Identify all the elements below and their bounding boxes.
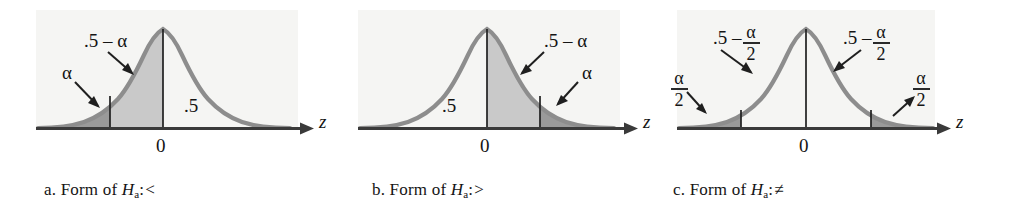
z-axis-label: z (955, 111, 964, 132)
panel-a-chart: .5 – α α .5 0 z (0, 0, 340, 175)
caption-symbol: H (751, 180, 763, 199)
panel-two-tailed: .5 – α 2 .5 – α 2 α 2 α 2 0 z c. Form of… (665, 0, 1013, 208)
z-axis-arrowhead (937, 123, 951, 135)
statistics-figure: .5 – α α .5 0 z a. Form of Ha:< (0, 0, 1013, 208)
caption-symbol: H (122, 180, 134, 199)
center-tick-label: 0 (156, 135, 166, 156)
caption-letter: b. (372, 180, 385, 199)
caption-letter: a. (44, 180, 56, 199)
panel-right-tailed: .5 – α α .5 0 z b. Form of Ha:> (330, 0, 670, 208)
label-half: .5 (442, 95, 456, 116)
panel-a-caption: a. Form of Ha:< (44, 180, 155, 200)
caption-colon: : (768, 180, 773, 199)
center-tick-label: 0 (480, 135, 490, 156)
caption-relation: < (145, 180, 155, 199)
page-tint (36, 10, 298, 130)
panel-b-caption: b. Form of Ha:> (372, 180, 484, 200)
caption-relation: > (474, 180, 484, 199)
z-axis-arrowhead (624, 123, 638, 135)
caption-subscript: a (463, 188, 468, 200)
label-half: .5 (184, 95, 198, 116)
label-half-minus-alpha: .5 – α (84, 30, 127, 51)
caption-relation: ≠ (774, 180, 784, 199)
label-body-right-denominator: 2 (877, 44, 886, 64)
panel-b-chart: .5 – α α .5 0 z (330, 0, 670, 175)
caption-subscript: a (763, 188, 768, 200)
label-tail-left-denominator: 2 (675, 90, 684, 110)
caption-word: Form of (390, 180, 447, 199)
label-tail-left-numerator: α (674, 68, 684, 88)
caption-colon: : (139, 180, 144, 199)
label-body-left-numerator: α (746, 22, 756, 42)
z-axis-arrowhead (300, 123, 314, 135)
panel-c-caption: c. Form of Ha:≠ (673, 180, 784, 200)
caption-word: Form of (61, 180, 118, 199)
label-body-right-lead: .5 – (843, 27, 872, 48)
label-alpha: α (62, 62, 72, 83)
caption-word: Form of (690, 180, 747, 199)
label-tail-right-numerator: α (916, 68, 926, 88)
z-axis-label: z (642, 111, 651, 132)
caption-subscript: a (134, 188, 139, 200)
label-body-right-numerator: α (876, 22, 886, 42)
panel-left-tailed: .5 – α α .5 0 z a. Form of Ha:< (0, 0, 340, 208)
label-half-minus-alpha: .5 – α (544, 30, 587, 51)
caption-symbol: H (451, 180, 463, 199)
label-body-left-lead: .5 – (713, 27, 742, 48)
label-alpha: α (582, 62, 592, 83)
panel-c-chart: .5 – α 2 .5 – α 2 α 2 α 2 0 z (665, 0, 1013, 175)
z-axis-label: z (318, 111, 327, 132)
caption-colon: : (468, 180, 473, 199)
label-body-left-denominator: 2 (747, 44, 756, 64)
caption-letter: c. (673, 180, 685, 199)
center-tick-label: 0 (799, 135, 809, 156)
label-tail-right-denominator: 2 (917, 90, 926, 110)
